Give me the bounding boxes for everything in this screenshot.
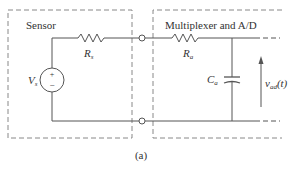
voltage-label: vad(t)	[265, 77, 288, 91]
resistor-rs-icon	[78, 34, 104, 42]
resistor-ra-icon	[172, 34, 198, 42]
source-plus: +	[50, 70, 55, 79]
arrow-head-icon	[259, 56, 264, 64]
figure-caption: (a)	[135, 149, 148, 162]
source-minus: −	[49, 80, 54, 90]
capacitor-ca-label: Ca	[207, 73, 218, 87]
sensor-bottom-wire	[52, 92, 139, 121]
resistor-ra-label: Ra	[182, 47, 194, 61]
source-label: Vs	[28, 74, 38, 88]
sensor-top-wire	[52, 38, 78, 68]
sensor-title: Sensor	[26, 19, 56, 31]
resistor-rs-label: Rs	[83, 47, 94, 61]
adc-title: Multiplexer and A/D	[165, 19, 257, 31]
terminal-top-icon	[139, 35, 145, 41]
terminal-bottom-icon	[139, 118, 145, 124]
circuit-diagram: + − Sensor Rs Vs Multiplexer and A/D Ra …	[0, 0, 296, 171]
